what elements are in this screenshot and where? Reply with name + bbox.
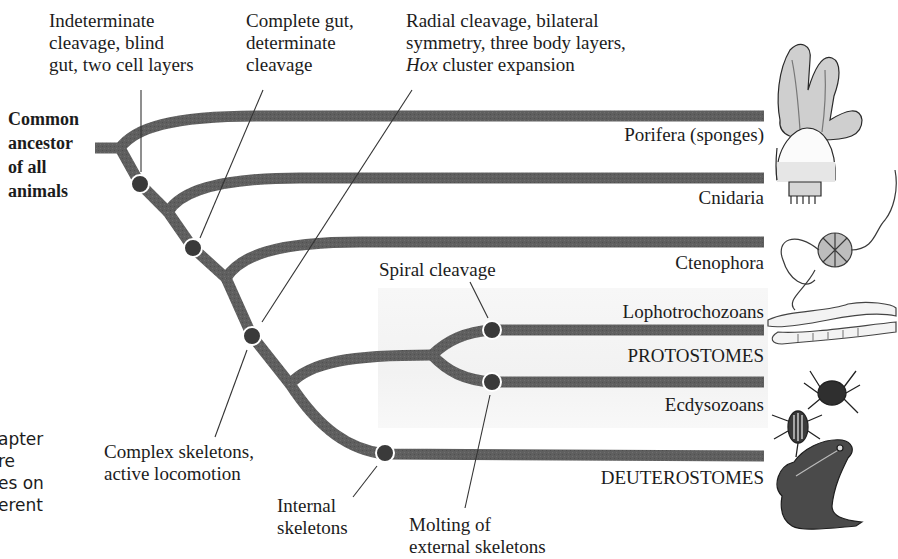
- leader-complex-skeletons: [215, 350, 247, 437]
- label-line: Molting of: [409, 514, 546, 536]
- label-line: Internal: [277, 495, 348, 517]
- side-text-line: re: [0, 450, 44, 472]
- label-complex-skeletons: Complex skeletons, active locomotion: [104, 441, 254, 485]
- label-spiral-cleavage: Spiral cleavage: [379, 259, 496, 281]
- leader-radial: [262, 90, 412, 322]
- label-line: Complex skeletons,: [104, 441, 254, 463]
- taxon-cnidaria: Cnidaria: [699, 187, 764, 209]
- side-text-line: apter: [0, 428, 44, 450]
- label-line-rest: cluster expansion: [438, 54, 575, 75]
- node-complete-gut: [184, 239, 202, 257]
- label-line: gut, two cell layers: [49, 54, 194, 76]
- leader-internal-skeletons: [353, 466, 377, 497]
- side-text-line: erent: [0, 494, 44, 516]
- leader-spiral: [470, 282, 488, 318]
- label-line: skeletons: [277, 517, 348, 539]
- root-label-line-1: Common: [8, 107, 79, 131]
- label-line: Indeterminate: [49, 10, 194, 32]
- label-radial-cleavage: Radial cleavage, bilateral symmetry, thr…: [406, 10, 626, 76]
- node-internal-skeletons: [376, 444, 394, 462]
- taxon-ctenophora: Ctenophora: [675, 252, 764, 274]
- label-line: active locomotion: [104, 463, 254, 485]
- node-molting: [483, 373, 501, 391]
- label-molting: Molting of external skeletons: [409, 514, 546, 558]
- label-line: determinate: [246, 32, 354, 54]
- label-internal-skeletons: Internal skeletons: [277, 495, 348, 539]
- label-indeterminate-cleavage: Indeterminate cleavage, blind gut, two c…: [49, 10, 194, 76]
- label-line: external skeletons: [409, 536, 546, 558]
- label-line: symmetry, three body layers,: [406, 32, 626, 54]
- root-label: Common ancestor of all animals: [8, 107, 79, 203]
- label-line: cleavage: [246, 54, 354, 76]
- frog-illustration: [777, 440, 862, 529]
- label-complete-gut: Complete gut, determinate cleavage: [246, 10, 354, 76]
- node-bilateria: [243, 327, 261, 345]
- worms-illustration: [768, 302, 896, 344]
- taxon-porifera: Porifera (sponges): [624, 124, 764, 146]
- taxon-protostomes: PROTOSTOMES: [627, 345, 764, 367]
- taxon-lophotrochozoans: Lophotrochozoans: [623, 301, 764, 323]
- root-label-line-2: ancestor: [8, 131, 79, 155]
- side-text-line: es on: [0, 472, 44, 494]
- label-line: cleavage, blind: [49, 32, 194, 54]
- sponge-illustration: [778, 45, 862, 140]
- node-indeterminate: [131, 175, 149, 193]
- branch-cnidaria: [168, 178, 764, 212]
- clipped-side-text: apter re es on erent: [0, 428, 44, 516]
- label-line: Radial cleavage, bilateral: [406, 10, 626, 32]
- root-label-line-3: of all: [8, 155, 79, 179]
- jellyfish-illustration: [776, 128, 835, 204]
- branch-protostomes: [290, 355, 432, 384]
- hox-italic: Hox: [406, 54, 438, 75]
- label-line: Complete gut,: [246, 10, 354, 32]
- taxon-deuterostomes: DEUTEROSTOMES: [601, 467, 764, 489]
- label-line: Hox cluster expansion: [406, 54, 626, 76]
- node-spiral-cleavage: [483, 321, 501, 339]
- taxon-ecdysozoans: Ecdysozoans: [665, 394, 764, 416]
- root-label-line-4: animals: [8, 179, 79, 203]
